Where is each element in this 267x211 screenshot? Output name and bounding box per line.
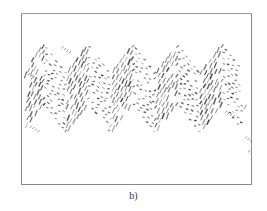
text-glyph-stroke <box>27 68 29 73</box>
text-glyph-stroke <box>104 108 106 109</box>
text-glyph-stroke <box>108 112 110 113</box>
text-glyph-stroke <box>176 102 178 106</box>
text-glyph-stroke <box>207 79 209 83</box>
text-glyph-stroke <box>176 74 178 78</box>
text-glyph-stroke <box>91 84 93 85</box>
text-glyph-stroke <box>134 92 136 94</box>
text-fragment-stroke <box>62 47 64 49</box>
text-glyph-stroke <box>181 102 183 104</box>
text-glyph-stroke <box>112 74 114 79</box>
text-glyph-stroke <box>142 105 144 106</box>
text-glyph-stroke <box>34 100 36 105</box>
text-glyph-stroke <box>34 77 36 83</box>
text-glyph-stroke <box>140 107 142 108</box>
text-glyph-stroke <box>86 90 88 96</box>
text-glyph-stroke <box>214 58 216 63</box>
text-glyph-stroke <box>94 59 96 61</box>
text-glyph-stroke <box>128 81 130 86</box>
text-glyph-stroke <box>30 111 32 117</box>
text-glyph-stroke <box>157 125 159 131</box>
text-glyph-stroke <box>135 72 137 73</box>
text-glyph-stroke <box>110 124 112 128</box>
text-glyph-stroke <box>204 64 206 70</box>
text-glyph-stroke <box>186 109 188 110</box>
text-glyph-stroke <box>151 116 153 117</box>
text-glyph-stroke <box>113 67 115 73</box>
text-glyph-stroke <box>184 95 186 96</box>
text-glyph-stroke <box>62 127 64 128</box>
text-glyph-stroke <box>37 89 39 95</box>
text-glyph-stroke <box>156 98 158 104</box>
text-glyph-stroke <box>69 78 71 84</box>
text-glyph-stroke <box>154 90 156 92</box>
text-glyph-stroke <box>176 63 178 66</box>
text-glyph-stroke <box>154 118 156 121</box>
text-glyph-stroke <box>32 62 34 67</box>
text-glyph-stroke <box>223 76 225 77</box>
text-glyph-stroke <box>218 92 220 98</box>
text-glyph-stroke <box>121 62 123 67</box>
text-glyph-stroke <box>157 68 159 74</box>
text-glyph-stroke <box>62 99 64 100</box>
text-glyph-stroke <box>80 93 82 97</box>
text-glyph-stroke <box>204 89 206 94</box>
text-glyph-stroke <box>113 114 115 119</box>
text-glyph-stroke <box>28 91 30 96</box>
text-glyph-stroke <box>51 78 53 79</box>
text-glyph-stroke <box>196 87 198 88</box>
text-glyph-stroke <box>138 110 140 111</box>
text-glyph-stroke <box>112 80 114 85</box>
text-glyph-stroke <box>133 64 135 65</box>
text-glyph-stroke <box>125 57 127 62</box>
text-fragment-stroke <box>245 137 247 139</box>
text-fragment-stroke <box>248 150 250 152</box>
text-glyph-stroke <box>59 71 61 72</box>
text-glyph-stroke <box>219 68 221 73</box>
text-glyph-stroke <box>75 98 77 105</box>
text-glyph-stroke <box>195 99 197 100</box>
text-glyph-stroke <box>30 82 32 87</box>
text-glyph-stroke <box>200 110 202 115</box>
text-glyph-stroke <box>200 104 202 110</box>
text-glyph-stroke <box>188 94 190 96</box>
text-glyph-stroke <box>87 68 89 72</box>
text-glyph-stroke <box>116 122 118 126</box>
text-glyph-stroke <box>112 108 114 113</box>
text-glyph-stroke <box>57 92 59 94</box>
text-glyph-stroke <box>42 44 44 49</box>
text-glyph-stroke <box>112 97 114 103</box>
text-glyph-stroke <box>227 64 229 65</box>
text-glyph-stroke <box>225 49 227 50</box>
text-glyph-stroke <box>112 125 114 132</box>
text-glyph-stroke <box>53 70 55 71</box>
text-glyph-stroke <box>66 104 68 109</box>
text-fragment-stroke <box>33 105 35 107</box>
text-fragment-stroke <box>26 101 28 103</box>
text-glyph-stroke <box>70 88 72 94</box>
text-glyph-stroke <box>116 92 118 97</box>
text-glyph-stroke <box>166 102 168 108</box>
text-glyph-stroke <box>43 97 45 99</box>
text-glyph-stroke <box>78 78 80 83</box>
text-glyph-stroke <box>240 110 242 111</box>
text-glyph-stroke <box>128 59 130 65</box>
text-glyph-stroke <box>116 64 118 69</box>
text-glyph-stroke <box>78 67 80 72</box>
text-glyph-stroke <box>78 107 80 112</box>
text-glyph-stroke <box>72 109 74 115</box>
text-glyph-stroke <box>40 76 42 81</box>
text-glyph-stroke <box>211 80 213 85</box>
text-glyph-stroke <box>120 93 122 99</box>
text-glyph-stroke <box>112 87 114 92</box>
text-glyph-stroke <box>203 124 205 129</box>
text-glyph-stroke <box>125 74 127 80</box>
text-glyph-stroke <box>101 92 103 93</box>
text-glyph-stroke <box>77 114 79 119</box>
text-glyph-stroke <box>124 69 126 74</box>
text-glyph-stroke <box>43 75 45 76</box>
text-glyph-stroke <box>191 94 193 95</box>
text-glyph-stroke <box>82 73 84 78</box>
text-glyph-stroke <box>223 63 225 64</box>
text-glyph-stroke <box>33 94 35 100</box>
text-glyph-stroke <box>124 92 126 97</box>
